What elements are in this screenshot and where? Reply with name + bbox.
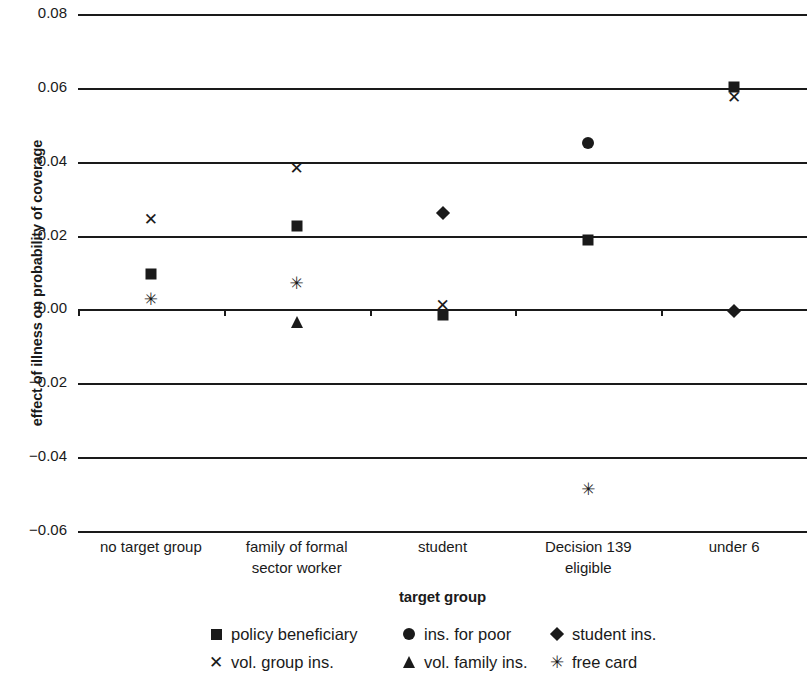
data-point-marker: ✳ xyxy=(144,291,158,308)
chart-legend: policy beneficiaryins. for poorstudent i… xyxy=(205,620,685,676)
data-point-marker xyxy=(145,269,156,280)
x-axis-category-label-line: under 6 xyxy=(661,536,807,557)
x-axis-category-label-line: eligible xyxy=(515,557,661,578)
legend-item-label: vol. group ins. xyxy=(231,653,334,672)
plot-area: 0.080.060.040.020.00−0.02−0.04−0.06 ✕✕✕✕… xyxy=(78,14,807,531)
y-axis-tick-label: −0.02 xyxy=(0,373,67,390)
legend-item-label: policy beneficiary xyxy=(231,625,358,644)
axis-tickmark xyxy=(370,309,372,316)
y-axis-tick-label: −0.04 xyxy=(0,447,67,464)
gridline xyxy=(78,14,807,16)
legend-marker-x-icon: ✕ xyxy=(205,654,227,671)
legend-item: vol. family ins. xyxy=(398,648,546,676)
legend-item: student ins. xyxy=(546,620,685,648)
x-axis-category-label: no target group xyxy=(78,536,224,588)
data-point-marker xyxy=(727,303,741,317)
x-axis-category-label-line: family of formal xyxy=(224,536,370,557)
y-axis-tick-label: 0.06 xyxy=(0,78,67,95)
legend-marker-diamond-icon xyxy=(546,629,568,639)
x-axis-category-label: under 6 xyxy=(661,536,807,588)
x-axis-category-label-line: student xyxy=(370,536,516,557)
data-point-marker xyxy=(291,221,302,232)
data-point-marker xyxy=(583,235,594,246)
gridline xyxy=(78,457,807,459)
y-axis-tick-label: 0.04 xyxy=(0,152,67,169)
data-point-marker xyxy=(435,206,449,220)
gridline xyxy=(78,531,807,533)
data-point-marker: ✕ xyxy=(435,297,449,314)
x-axis-category-label-line: sector worker xyxy=(224,557,370,578)
x-axis-category-label: student xyxy=(370,536,516,588)
y-axis-title: effect of illness on probability of cove… xyxy=(29,83,45,483)
legend-item-label: ins. for poor xyxy=(424,625,511,644)
gridline xyxy=(78,383,807,385)
x-axis-category-label: Decision 139eligible xyxy=(515,536,661,588)
scatter-chart-figure: effect of illness on probability of cove… xyxy=(0,0,807,679)
gridline xyxy=(78,236,807,238)
legend-marker-triangle-icon xyxy=(398,656,420,668)
x-axis-title: target group xyxy=(78,588,807,605)
data-point-marker: ✕ xyxy=(144,211,158,228)
gridline xyxy=(78,162,807,164)
y-axis-tick-label: 0.00 xyxy=(0,299,67,316)
data-point-marker: ✕ xyxy=(727,89,741,106)
y-axis-tick-label: 0.02 xyxy=(0,226,67,243)
legend-item: ins. for poor xyxy=(398,620,546,648)
y-axis-tick-label: 0.08 xyxy=(0,4,67,21)
legend-item: ✕vol. group ins. xyxy=(205,648,398,676)
data-point-marker: ✕ xyxy=(290,160,304,177)
axis-tickmark xyxy=(661,309,663,316)
legend-marker-asterisk-icon: ✳ xyxy=(546,654,568,671)
legend-item-label: free card xyxy=(572,653,637,672)
x-axis-category-label-line: Decision 139 xyxy=(515,536,661,557)
x-axis-category-labels: no target groupfamily of formalsector wo… xyxy=(78,536,807,588)
legend-item-label: vol. family ins. xyxy=(424,653,528,672)
gridline xyxy=(78,88,807,90)
legend-item-label: student ins. xyxy=(572,625,656,644)
x-axis-category-label: family of formalsector worker xyxy=(224,536,370,588)
legend-marker-circle-icon xyxy=(398,628,420,640)
axis-tickmark xyxy=(515,309,517,316)
legend-marker-square-icon xyxy=(205,629,227,640)
legend-item: policy beneficiary xyxy=(205,620,398,648)
data-point-marker xyxy=(582,137,594,149)
legend-item: ✳free card xyxy=(546,648,685,676)
axis-tickmark xyxy=(78,309,80,316)
data-point-marker: ✳ xyxy=(290,275,304,292)
x-axis-category-label-line: no target group xyxy=(78,536,224,557)
axis-tickmark xyxy=(224,309,226,316)
data-point-marker xyxy=(291,316,303,328)
y-axis-tick-label: −0.06 xyxy=(0,521,67,538)
data-point-marker: ✳ xyxy=(581,482,595,499)
